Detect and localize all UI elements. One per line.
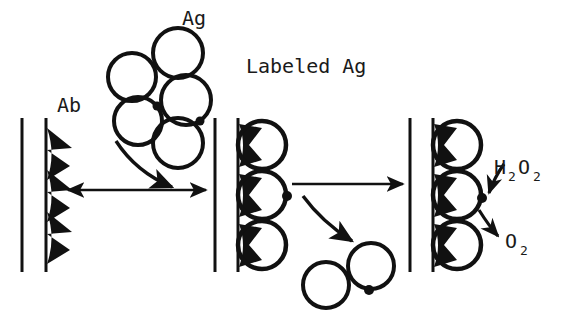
stage-3-enzymatic-reaction bbox=[410, 118, 487, 272]
substrate-o: O bbox=[518, 155, 530, 179]
antibody-symbol bbox=[47, 128, 72, 180]
antigen-circle bbox=[108, 53, 156, 101]
labeled-antigen-label: Labeled Ag bbox=[246, 54, 366, 78]
product-o: O bbox=[505, 229, 517, 253]
labeled-antigen-circle bbox=[348, 243, 394, 289]
substrate-o-subscript: 2 bbox=[533, 169, 541, 184]
label-dot-icon bbox=[364, 285, 374, 295]
antibody-symbol bbox=[47, 212, 72, 264]
antigen-circle bbox=[153, 28, 203, 78]
bound-antigen-complex bbox=[238, 121, 286, 169]
bound-antigen-complex bbox=[433, 221, 481, 269]
label-dot-icon bbox=[282, 191, 292, 201]
antigen-label: Ag bbox=[182, 6, 206, 30]
stage-2-antigen-bound bbox=[215, 118, 292, 272]
antibody-symbol bbox=[47, 170, 72, 222]
substrate-label: H 2 O 2 bbox=[494, 155, 541, 184]
product-label: O 2 bbox=[505, 229, 528, 258]
bound-antigen-complex bbox=[433, 121, 481, 169]
arrow-product-out bbox=[479, 210, 498, 236]
antigen-circle bbox=[303, 262, 349, 308]
bound-labeled-antigen-complex bbox=[238, 171, 292, 219]
label-dot-icon bbox=[477, 193, 487, 203]
stage-1-antibody-surface bbox=[22, 118, 72, 272]
released-antigen-pair bbox=[303, 243, 394, 308]
label-dot-icon bbox=[153, 102, 162, 111]
antibody-label: Ab bbox=[57, 93, 81, 117]
immunoassay-diagram: Ag Ab Labeled Ag H 2 O 2 O 2 bbox=[0, 0, 564, 319]
substrate-h-subscript: 2 bbox=[508, 169, 516, 184]
product-o-subscript: 2 bbox=[520, 243, 528, 258]
bound-antigen-complex bbox=[238, 221, 286, 269]
arrow-antigen-release bbox=[303, 196, 352, 241]
diagram-canvas: Ag Ab Labeled Ag H 2 O 2 O 2 bbox=[0, 0, 564, 319]
substrate-h: H bbox=[494, 155, 506, 179]
free-antigen-cluster bbox=[108, 28, 211, 168]
